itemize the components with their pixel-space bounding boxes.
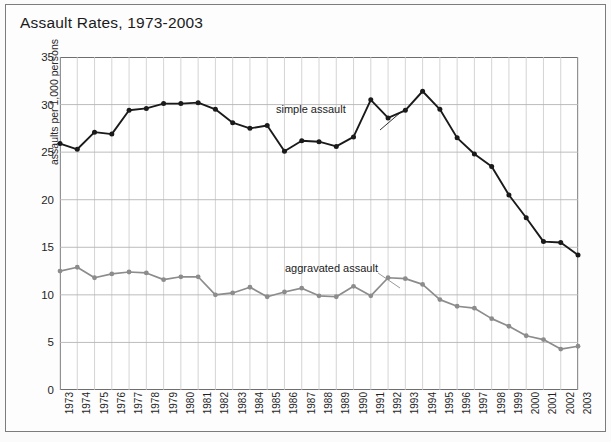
chart-figure: Assault Rates, 1973-2003 assaults per 1,… (0, 0, 611, 442)
data-point (489, 164, 494, 169)
data-point (127, 270, 132, 275)
data-point (161, 277, 166, 282)
x-axis-tick-label: 1975 (99, 392, 110, 414)
x-axis-tick-label: 1978 (150, 392, 161, 414)
x-axis-tick-label: 2001 (547, 392, 558, 414)
y-axis-tick-label: 5 (8, 336, 54, 348)
series-label-aggravated-assault: aggravated assault (285, 262, 378, 274)
data-point (58, 141, 63, 146)
data-point (368, 293, 373, 298)
x-axis-tick-label: 1990 (358, 392, 369, 414)
y-axis-tick-label: 25 (8, 146, 54, 158)
x-axis-tick-label: 2002 (565, 392, 576, 414)
data-point (368, 97, 373, 102)
x-axis-tick-label: 1996 (461, 392, 472, 414)
x-axis-tick-label: 1992 (392, 392, 403, 414)
data-point (386, 115, 391, 120)
x-axis-tick-label: 1995 (444, 392, 455, 414)
data-point (558, 240, 563, 245)
x-axis-tick-label: 2000 (530, 392, 541, 414)
data-point (541, 337, 546, 342)
data-point (196, 274, 201, 279)
data-point (230, 120, 235, 125)
x-axis-tick-label: 1974 (81, 392, 92, 414)
y-axis-tick-label: 35 (8, 51, 54, 63)
data-point (437, 297, 442, 302)
data-point (247, 126, 252, 131)
data-point (420, 89, 425, 94)
data-point (472, 306, 477, 311)
data-point (334, 294, 339, 299)
data-point (403, 108, 408, 113)
data-point (317, 139, 322, 144)
x-axis-tick-label: 1993 (409, 392, 420, 414)
data-point (75, 147, 80, 152)
data-point (144, 106, 149, 111)
y-axis-tick-label: 0 (8, 384, 54, 396)
data-point (213, 292, 218, 297)
y-axis-ticks: 05101520253035 (0, 57, 54, 390)
x-axis-tick-label: 1984 (254, 392, 265, 414)
x-axis-ticks: 1973197419751976197719781979198019811982… (60, 392, 578, 440)
x-axis-tick-label: 1999 (513, 392, 524, 414)
series-label-simple-assault: simple assault (276, 103, 346, 115)
data-point (299, 286, 304, 291)
data-point (541, 239, 546, 244)
data-point (161, 101, 166, 106)
data-point (455, 304, 460, 309)
data-point (75, 265, 80, 270)
x-axis-tick-label: 1985 (271, 392, 282, 414)
data-point (506, 192, 511, 197)
data-point (558, 347, 563, 352)
data-point (282, 290, 287, 295)
data-point (127, 108, 132, 113)
data-point (299, 138, 304, 143)
data-point (351, 134, 356, 139)
x-axis-tick-label: 1982 (219, 392, 230, 414)
data-point (317, 293, 322, 298)
data-point (472, 152, 477, 157)
data-point (351, 284, 356, 289)
y-axis-tick-label: 10 (8, 289, 54, 301)
data-point (420, 282, 425, 287)
data-point (92, 275, 97, 280)
x-axis-tick-label: 1980 (185, 392, 196, 414)
x-axis-tick-label: 1983 (237, 392, 248, 414)
data-point (178, 274, 183, 279)
data-point (196, 100, 201, 105)
x-axis-tick-label: 1987 (306, 392, 317, 414)
data-point (178, 101, 183, 106)
data-point (437, 107, 442, 112)
data-point (524, 215, 529, 220)
x-axis-tick-label: 1976 (116, 392, 127, 414)
y-axis-tick-label: 15 (8, 241, 54, 253)
data-point (507, 324, 512, 329)
x-axis-tick-label: 1989 (340, 392, 351, 414)
data-point (265, 123, 270, 128)
x-axis-tick-label: 1994 (427, 392, 438, 414)
x-axis-tick-label: 1986 (288, 392, 299, 414)
data-point (230, 291, 235, 296)
x-axis-tick-label: 1991 (375, 392, 386, 414)
x-axis-tick-label: 1973 (64, 392, 75, 414)
data-point (576, 252, 581, 257)
y-axis-tick-label: 30 (8, 99, 54, 111)
x-axis-tick-label: 1988 (323, 392, 334, 414)
data-point (576, 344, 581, 349)
y-axis-tick-label: 20 (8, 194, 54, 206)
data-point (265, 294, 270, 299)
data-point (248, 285, 253, 290)
data-point (334, 144, 339, 149)
data-point (524, 333, 529, 338)
x-axis-tick-label: 1997 (478, 392, 489, 414)
annotation-leader-simple (380, 112, 401, 130)
x-axis-tick-label: 2003 (582, 392, 593, 414)
data-point (109, 272, 114, 277)
data-point (282, 149, 287, 154)
x-axis-tick-label: 1979 (168, 392, 179, 414)
x-axis-tick-label: 1977 (133, 392, 144, 414)
data-point (109, 132, 114, 137)
x-axis-tick-label: 1981 (202, 392, 213, 414)
data-point (58, 269, 63, 274)
data-point (144, 271, 149, 276)
